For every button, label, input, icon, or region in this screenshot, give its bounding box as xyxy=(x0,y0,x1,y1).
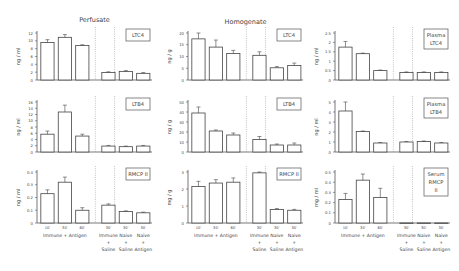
svg-text:Immune: Immune xyxy=(250,233,269,238)
bar xyxy=(339,47,352,80)
bar xyxy=(253,140,266,153)
svg-text:0: 0 xyxy=(31,150,34,155)
svg-text:Naive: Naive xyxy=(270,233,283,238)
chart-column-plasma: 00.511.522.5ng / mlPlasmaLTC4012345ng / … xyxy=(313,27,450,252)
svg-text:20: 20 xyxy=(179,31,184,36)
bar xyxy=(288,210,301,223)
svg-text:12: 12 xyxy=(28,112,33,117)
svg-text:5: 5 xyxy=(182,66,185,71)
svg-text:4: 4 xyxy=(31,137,34,142)
svg-text:Naive: Naive xyxy=(119,233,132,238)
bar xyxy=(400,223,413,224)
svg-text:Naive: Naive xyxy=(435,233,448,238)
bar xyxy=(76,136,89,152)
y-axis-label: ng / g xyxy=(166,120,173,134)
svg-text:30': 30' xyxy=(360,226,366,230)
svg-text:+: + xyxy=(405,240,409,245)
bar xyxy=(58,37,71,80)
bar xyxy=(356,132,369,153)
svg-text:10': 10' xyxy=(196,226,202,230)
svg-text:5: 5 xyxy=(329,100,332,105)
svg-text:30': 30' xyxy=(62,226,68,230)
bar xyxy=(41,42,54,80)
svg-text:1.5: 1.5 xyxy=(325,49,332,54)
svg-text:1: 1 xyxy=(182,204,185,209)
bar xyxy=(119,147,132,152)
svg-text:2: 2 xyxy=(31,70,34,75)
panel-plasma-ltc4: 00.511.522.5ng / mlPlasmaLTC4 xyxy=(313,27,450,83)
svg-text:0.3: 0.3 xyxy=(325,190,332,195)
bar xyxy=(288,65,301,80)
bar xyxy=(76,210,89,223)
bar xyxy=(374,143,387,152)
svg-text:20: 20 xyxy=(179,130,184,135)
bar xyxy=(417,142,430,153)
svg-text:Saline: Saline xyxy=(399,247,413,252)
svg-text:6: 6 xyxy=(31,54,34,59)
bar xyxy=(435,143,448,152)
svg-text:LTB4: LTB4 xyxy=(283,101,296,107)
bar xyxy=(192,186,205,223)
svg-text:10: 10 xyxy=(28,118,33,123)
svg-text:LTC4: LTC4 xyxy=(283,32,296,38)
column-title: Homogenate xyxy=(225,18,267,26)
svg-text:+: + xyxy=(107,240,111,245)
svg-text:Immune + Antigen: Immune + Antigen xyxy=(341,233,385,238)
svg-text:4: 4 xyxy=(329,110,332,115)
svg-text:+: + xyxy=(439,240,443,245)
bar xyxy=(227,53,240,80)
y-axis-label: ng / ml xyxy=(15,48,22,65)
y-axis-label: ng / ml xyxy=(15,118,22,135)
svg-text:Saline: Saline xyxy=(252,247,266,252)
svg-text:0.3: 0.3 xyxy=(27,182,34,187)
svg-text:10: 10 xyxy=(179,140,184,145)
svg-text:0: 0 xyxy=(182,221,185,226)
bar xyxy=(339,200,352,223)
svg-text:30': 30' xyxy=(257,226,263,230)
svg-text:0: 0 xyxy=(329,78,332,83)
bar xyxy=(400,72,413,80)
panel-ltb4: 01020304050ng / gLTB4 xyxy=(166,96,303,155)
svg-text:30': 30' xyxy=(141,226,147,230)
panel-ltc4: 05101520ng / gLTC4 xyxy=(166,27,303,83)
chart-column-homogenate: Homogenate05101520ng / gLTC401020304050n… xyxy=(166,18,303,252)
svg-text:2: 2 xyxy=(329,130,332,135)
svg-text:Plasma: Plasma xyxy=(427,32,446,38)
svg-text:16: 16 xyxy=(28,100,33,105)
panel-ltb4: 0246810121416ng / mlLTB4 xyxy=(15,96,152,155)
bar xyxy=(417,72,430,80)
bar xyxy=(119,212,132,223)
svg-text:3: 3 xyxy=(329,120,332,125)
bar xyxy=(102,146,115,152)
svg-text:2: 2 xyxy=(31,143,34,148)
svg-text:0.5: 0.5 xyxy=(325,170,332,175)
panel-serum-rmcp-ii: 00.10.20.30.40.5mg / ml10'30'60'30'30'30… xyxy=(313,166,450,252)
y-axis-label: ng / ml xyxy=(313,118,320,135)
svg-text:Antigen: Antigen xyxy=(285,247,303,252)
svg-text:Saline: Saline xyxy=(417,247,431,252)
bar xyxy=(102,205,115,223)
svg-text:0.2: 0.2 xyxy=(325,200,332,205)
bar xyxy=(374,71,387,80)
svg-text:6: 6 xyxy=(31,131,34,136)
bar xyxy=(270,209,283,223)
bar xyxy=(227,182,240,223)
bar xyxy=(288,145,301,152)
bar xyxy=(417,223,430,224)
svg-text:30': 30' xyxy=(123,226,129,230)
svg-text:Naive: Naive xyxy=(137,233,150,238)
svg-text:+: + xyxy=(422,240,426,245)
bar xyxy=(137,213,150,223)
chart-column-perfusate: Perfusate024681012ng / mlLTC402468101214… xyxy=(15,16,152,252)
svg-text:0.4: 0.4 xyxy=(325,180,332,185)
bar xyxy=(58,112,71,152)
svg-text:4: 4 xyxy=(31,62,34,67)
svg-text:0: 0 xyxy=(329,221,332,226)
bar xyxy=(270,145,283,152)
bar xyxy=(209,47,222,80)
svg-text:II: II xyxy=(434,187,438,193)
bar xyxy=(192,113,205,152)
bar xyxy=(209,131,222,152)
svg-text:10: 10 xyxy=(28,38,33,43)
bar xyxy=(137,146,150,152)
